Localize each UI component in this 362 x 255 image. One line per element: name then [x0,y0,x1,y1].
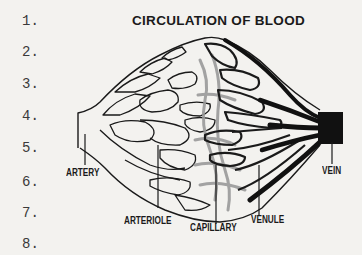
artery-vessel-outline [78,37,320,222]
capillary-bed-illustration [0,0,362,255]
vein-trunk [318,112,343,144]
label-artery: ARTERY [66,167,99,178]
label-arteriole: ARTERIOLE [124,215,171,226]
label-capillary: CAPILLARY [190,222,237,233]
vein-branches [225,40,320,200]
label-vein: VEIN [322,165,341,176]
label-venule: VENULE [251,214,284,225]
